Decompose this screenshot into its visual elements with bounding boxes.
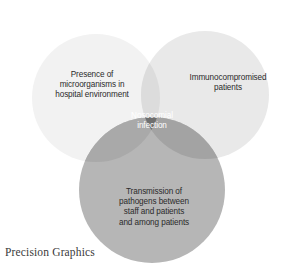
venn-diagram: Presence ofmicroorganisms inhospital env…: [0, 0, 302, 278]
label-transmission: Transmission ofpathogens betweenstaff an…: [119, 187, 189, 227]
caption-credit: Precision Graphics: [5, 246, 95, 258]
venn-diagram-canvas: Presence ofmicroorganisms inhospital env…: [0, 0, 302, 278]
